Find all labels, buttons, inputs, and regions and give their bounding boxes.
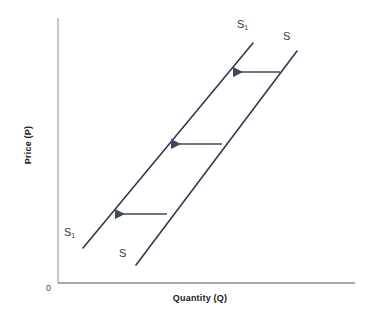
curve-label-s1-bottom-subscript: 1: [71, 232, 75, 239]
supply-curve-s1: [83, 43, 253, 248]
plot-area: [0, 0, 369, 321]
curve-label-s-top-text: S: [283, 30, 290, 42]
origin-label: 0: [46, 283, 51, 293]
supply-curve-s: [136, 51, 297, 265]
curve-label-s1-bottom: S1: [64, 226, 75, 238]
curve-label-s-bottom-text: S: [119, 247, 126, 259]
curve-label-s-bottom: S: [119, 247, 126, 259]
supply-shift-diagram: S1 S S1 S 0 Price (P) Quantity (Q): [0, 0, 369, 321]
curve-label-s-top: S: [283, 30, 290, 42]
curve-label-s1-top: S1: [237, 18, 248, 30]
x-axis-label: Quantity (Q): [140, 293, 260, 303]
curve-label-s1-top-subscript: 1: [244, 24, 248, 31]
y-axis-label: Price (P): [23, 105, 33, 185]
